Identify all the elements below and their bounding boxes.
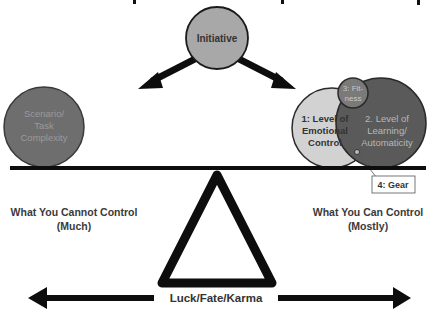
gear-dot-icon	[355, 150, 360, 155]
left-caption-line1: What You Cannot Control	[0, 205, 148, 219]
right-caption-line1: What You Can Control	[298, 205, 438, 219]
fulcrum-triangle	[162, 175, 272, 283]
right-caption: What You Can Control (Mostly)	[298, 205, 438, 233]
gear-label: 4: Gear	[377, 180, 409, 190]
right-caption-line2: (Mostly)	[298, 219, 438, 233]
scenario-complexity-circle: Scenario/ Task Complexity	[4, 87, 84, 167]
fitness-circle: 3: Fit- ness	[338, 78, 368, 108]
left-caption-line2: (Much)	[0, 219, 148, 233]
svg-text:1: Level of: 1: Level of	[302, 113, 350, 124]
luck-axis: Luck/Fate/Karma	[28, 287, 411, 309]
left-caption: What You Cannot Control (Much)	[0, 205, 148, 233]
svg-text:Emotional: Emotional	[302, 125, 348, 136]
initiative-label: Initiative	[197, 33, 238, 44]
cropped-title-fragment	[133, 0, 420, 5]
svg-text:Scenario/: Scenario/	[24, 108, 64, 119]
svg-text:ness: ness	[345, 94, 362, 103]
svg-text:Learning/: Learning/	[367, 125, 407, 136]
seesaw-beam	[10, 166, 426, 170]
axis-right-arrow-icon	[393, 287, 411, 309]
svg-text:Control: Control	[308, 137, 342, 148]
svg-text:2. Level of: 2. Level of	[365, 113, 409, 124]
svg-text:3: Fit-: 3: Fit-	[343, 84, 364, 93]
seesaw-diagram: Initiative Scenario/ Task Complexity 3: …	[0, 0, 441, 314]
luck-fate-karma-label: Luck/Fate/Karma	[170, 292, 263, 304]
svg-text:Automaticity: Automaticity	[361, 137, 413, 148]
initiative-circle: Initiative	[186, 7, 248, 69]
svg-text:Complexity: Complexity	[21, 132, 68, 143]
axis-left-arrow-icon	[28, 287, 47, 309]
svg-text:Task: Task	[34, 120, 54, 131]
learning-automaticity-text: 2. Level of Learning/ Automaticity	[361, 113, 413, 148]
